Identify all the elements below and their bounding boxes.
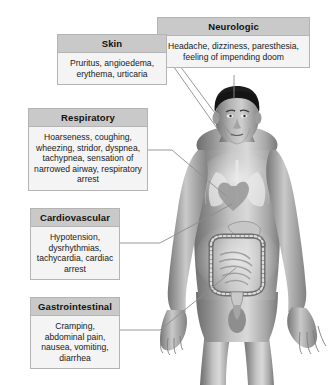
left-pupil <box>229 115 231 117</box>
callout-respiratory-title: Respiratory <box>29 109 147 127</box>
right-ear <box>255 112 262 124</box>
callout-neurologic-body: Headache, dizziness, paresthesia, feelin… <box>158 36 309 67</box>
callout-gastrointestinal-title: Gastrointestinal <box>31 298 119 316</box>
callout-cardiovascular-body: Hypotension, dysrhythmias, tachycardia, … <box>31 227 119 279</box>
callout-cardiovascular-title: Cardiovascular <box>31 209 119 227</box>
callout-respiratory[interactable]: Respiratory Hoarseness, coughing, wheezi… <box>28 108 148 191</box>
left-ear <box>213 112 220 124</box>
callout-neurologic[interactable]: Neurologic Headache, dizziness, paresthe… <box>157 17 310 68</box>
callout-skin[interactable]: Skin Pruritus, angioedema, erythema, urt… <box>57 34 167 85</box>
callout-respiratory-body: Hoarseness, coughing, wheezing, stridor,… <box>29 127 147 190</box>
right-pupil <box>243 115 245 117</box>
callout-neurologic-title: Neurologic <box>158 18 309 36</box>
right-hand <box>287 307 317 348</box>
callout-gastrointestinal[interactable]: Gastrointestinal Cramping, abdominal pai… <box>30 297 120 369</box>
callout-gastrointestinal-body: Cramping, abdominal pain, nausea, vomiti… <box>31 316 119 368</box>
callout-skin-body: Pruritus, angioedema, erythema, urticari… <box>58 53 166 84</box>
callout-skin-title: Skin <box>58 35 166 53</box>
left-hand <box>160 310 187 351</box>
diagram-canvas: Neurologic Headache, dizziness, paresthe… <box>0 0 336 385</box>
callout-cardiovascular[interactable]: Cardiovascular Hypotension, dysrhythmias… <box>30 208 120 280</box>
